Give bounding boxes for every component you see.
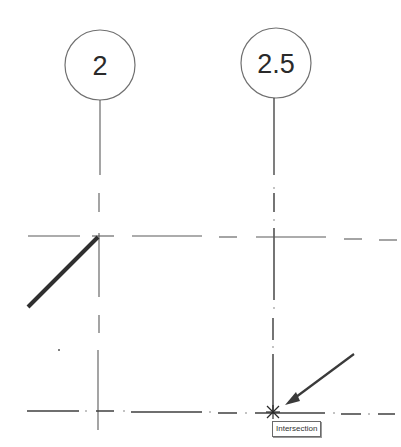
grid-2-5[interactable]: 2.5 [241,28,311,412]
grid-line-2-5-dot [273,187,275,189]
drawn-wall-line[interactable] [28,237,98,307]
drawing-canvas[interactable]: 2 2.5 [0,0,401,447]
hgrid-lower-dot [245,412,247,414]
grid-line-2-5-dot [273,307,275,309]
intersection-snap-icon [266,405,280,419]
hgrid-lower-dot [85,410,87,412]
arrow-shaft [292,354,354,400]
arrow-head [285,392,300,405]
stray-dot [58,349,60,351]
hgrid-lower-dot [333,412,335,414]
hgrid-lower-dot [123,410,125,412]
snap-tooltip: Intersection [272,421,321,437]
pointer-arrow-icon [285,354,354,405]
grid-horizontal-upper[interactable] [28,236,397,240]
hgrid-lower-dot [209,411,211,413]
grid-line-2-5-dot [272,346,274,348]
hgrid-lower-dot [368,413,370,415]
grid-horizontal-lower[interactable] [27,410,395,415]
grid-label-2-5: 2.5 [257,49,295,79]
grid-label-2: 2 [92,51,107,81]
grid-2[interactable]: 2 [65,30,135,430]
grid-line-2-5-dot [273,219,275,221]
